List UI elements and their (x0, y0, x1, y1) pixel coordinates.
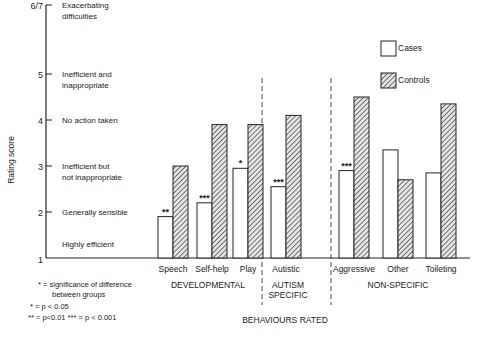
significance-notes: * = significance of differencebetween gr… (28, 280, 132, 322)
note-line: * = significance of difference (38, 280, 132, 289)
bar-cases (383, 150, 398, 258)
bar-controls (441, 104, 456, 258)
bar-controls (212, 125, 227, 258)
bar-cases (271, 187, 286, 258)
significance-marker: ** (162, 207, 170, 217)
note-line: ** = p<0.01 *** = p < 0.001 (28, 313, 116, 322)
x-tick-label: Self-help (195, 264, 229, 274)
bar-controls (286, 115, 301, 258)
y-axis-title: Rating score (6, 136, 16, 184)
y-tick-label: 6/7 (30, 1, 43, 11)
bar-controls (248, 125, 263, 258)
y-tick-label: 4 (38, 116, 43, 126)
y-descriptor: inappropriate (62, 81, 109, 90)
legend-controls: Controls (398, 75, 430, 85)
significance-marker: *** (273, 177, 284, 187)
bars: ************ (158, 97, 456, 258)
legend-cases: Cases (398, 43, 422, 53)
bar-cases (339, 171, 354, 258)
y-descriptor: Inefficient and (62, 70, 112, 79)
bar-cases (158, 217, 173, 258)
bar-controls (173, 166, 188, 258)
bar-cases (426, 173, 441, 258)
note-line: between groups (52, 290, 106, 299)
group-label: DEVELOPMENTAL (171, 280, 245, 290)
legend: CasesControls (381, 41, 430, 88)
bar-cases (233, 168, 248, 258)
y-tick-label: 3 (38, 162, 43, 172)
y-descriptor: difficulties (62, 12, 97, 21)
y-tick-label: 1 (38, 255, 43, 265)
y-tick-label: 2 (38, 208, 43, 218)
bar-chart: 6/754321ExacerbatingdifficultiesIneffici… (0, 0, 477, 339)
group-label: AUTISM (272, 280, 304, 290)
y-descriptor: No action taken (62, 116, 118, 125)
x-tick-label: Play (240, 264, 257, 274)
x-tick-label: Aggressive (333, 264, 375, 274)
x-axis-title: BEHAVIOURS RATED (242, 315, 328, 325)
bar-controls (354, 97, 369, 258)
y-descriptor: not inappropriate (62, 173, 123, 182)
bar-cases (197, 203, 212, 258)
y-axis-labels: 6/754321ExacerbatingdifficultiesIneffici… (6, 1, 128, 266)
x-tick-label: Toileting (425, 264, 456, 274)
note-line: * = p < 0.05 (30, 302, 69, 311)
y-descriptor: Generally sensible (62, 208, 128, 217)
y-descriptor: Highly efficient (62, 240, 115, 249)
y-descriptor: Exacerbating (62, 1, 109, 10)
significance-marker: * (239, 158, 243, 168)
x-tick-label: Speech (159, 264, 188, 274)
x-tick-label: Autistic (272, 264, 300, 274)
x-axis-labels: SpeechSelf-helpPlayAutisticAggressiveOth… (159, 264, 457, 325)
x-tick-label: Other (387, 264, 408, 274)
significance-marker: *** (341, 161, 352, 171)
bar-controls (398, 180, 413, 258)
y-descriptor: Inefficient but (62, 162, 110, 171)
significance-marker: *** (199, 193, 210, 203)
group-label: SPECIFIC (268, 290, 307, 300)
y-tick-label: 5 (38, 70, 43, 80)
group-label: NON-SPECIFIC (368, 280, 429, 290)
